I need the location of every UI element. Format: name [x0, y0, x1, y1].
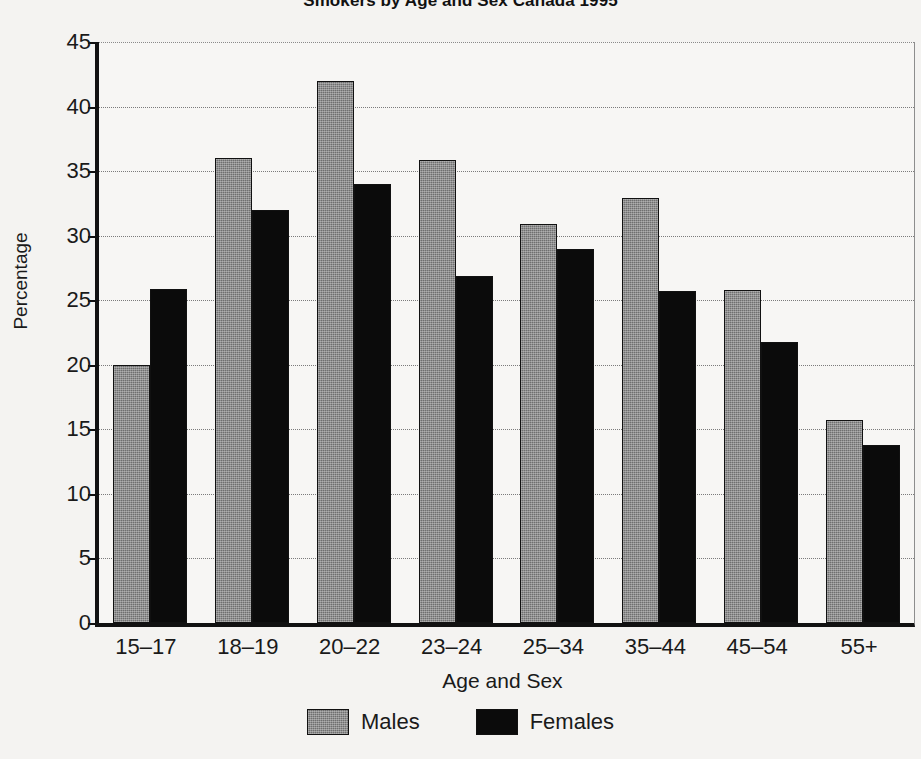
x-axis-tick-label: 35–44	[625, 634, 686, 660]
legend-label-males: Males	[361, 709, 420, 735]
y-axis-tick-label: 0	[79, 610, 91, 636]
chart-title: Smokers by Age and Sex Canada 1995	[0, 0, 921, 11]
x-axis-tick-label: 18–19	[217, 634, 278, 660]
bar-group	[826, 42, 900, 623]
bar-series-container	[99, 42, 914, 623]
bar-males-25_34	[520, 224, 557, 623]
x-axis-tick-label: 45–54	[727, 634, 788, 660]
bar-females-15_17	[150, 289, 187, 623]
y-axis-tick-label: 10	[67, 481, 91, 507]
y-axis-tick-label: 30	[67, 223, 91, 249]
legend-label-females: Females	[530, 709, 614, 735]
bar-group	[520, 42, 594, 623]
plot-area: 051015202530354045	[95, 42, 915, 627]
bar-females-20_22	[354, 184, 391, 623]
x-axis-tick-labels: 15–1718–1920–2223–2425–3435–4445–5455+	[95, 634, 910, 668]
bar-group	[113, 42, 187, 623]
x-axis-tick-label: 55+	[840, 634, 877, 660]
y-axis-tick-label: 40	[67, 94, 91, 120]
y-axis-tick-label: 25	[67, 287, 91, 313]
legend-swatch-females	[476, 709, 518, 735]
bar-females-35_44	[659, 291, 696, 623]
legend-item-females: Females	[476, 709, 614, 735]
bar-females-45_54	[761, 342, 798, 623]
bar-males-23_24	[419, 160, 456, 624]
x-axis-tick-label: 15–17	[115, 634, 176, 660]
bar-females-25_34	[557, 249, 594, 623]
bar-group	[724, 42, 798, 623]
bar-males-35_44	[622, 198, 659, 623]
bar-group	[215, 42, 289, 623]
y-axis-tick-label: 5	[79, 545, 91, 571]
legend-swatch-males	[307, 709, 349, 735]
legend-item-males: Males	[307, 709, 420, 735]
bar-males-55+	[826, 420, 863, 623]
bar-group	[419, 42, 493, 623]
legend: Males Females	[0, 709, 921, 735]
x-axis-tick-label: 23–24	[421, 634, 482, 660]
x-axis-tick-label: 20–22	[319, 634, 380, 660]
x-axis-title: Age and Sex	[95, 669, 910, 693]
bar-group	[317, 42, 391, 623]
bar-females-55+	[863, 445, 900, 623]
y-axis-title: Percentage	[10, 221, 32, 341]
y-axis-tick-label: 45	[67, 29, 91, 55]
y-axis-tick-label: 20	[67, 352, 91, 378]
bar-females-18_19	[252, 210, 289, 623]
bar-males-20_22	[317, 81, 354, 623]
bar-group	[622, 42, 696, 623]
bar-males-15_17	[113, 365, 150, 623]
bar-males-18_19	[215, 158, 252, 623]
x-axis-tick-label: 25–34	[523, 634, 584, 660]
bar-females-23_24	[456, 276, 493, 623]
y-axis-tick-label: 15	[67, 416, 91, 442]
y-axis-tick-label: 35	[67, 158, 91, 184]
bar-males-45_54	[724, 290, 761, 623]
